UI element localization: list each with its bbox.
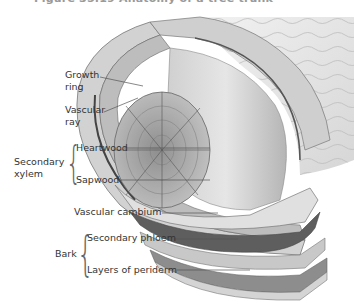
label-layers-of-periderm: Layers of periderm	[87, 264, 177, 276]
label-growth-ring: Growth ring	[65, 69, 99, 93]
label-bark: Bark	[55, 248, 77, 260]
label-heartwood: Heartwood	[76, 142, 128, 154]
label-vascular-cambium: Vascular cambium	[74, 206, 161, 218]
label-secondary-phloem: Secondary phloem	[87, 232, 176, 244]
heartwood-face	[114, 92, 210, 208]
tree-trunk-illustration	[0, 0, 354, 306]
label-vascular-ray: Vascular ray	[65, 104, 105, 128]
label-sapwood: Sapwood	[76, 174, 119, 186]
label-secondary-xylem: Secondary xylem	[14, 156, 64, 180]
